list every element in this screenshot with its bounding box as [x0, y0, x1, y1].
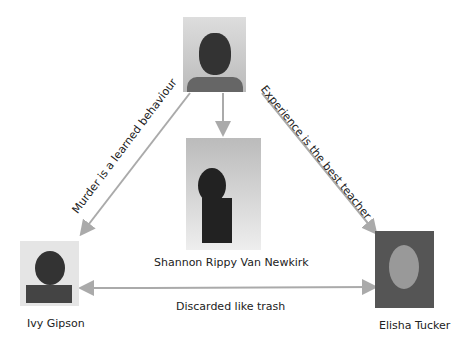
photo-shannon	[186, 138, 261, 250]
photo-top-person	[183, 17, 246, 92]
label-ivy: Ivy Gipson	[27, 317, 85, 330]
label-elisha: Elisha Tucker	[379, 319, 450, 332]
edge-label-discarded: Discarded like trash	[176, 300, 285, 313]
photo-ivy	[20, 241, 79, 306]
photo-elisha	[375, 231, 434, 308]
label-shannon: Shannon Rippy Van Newkirk	[154, 256, 309, 269]
